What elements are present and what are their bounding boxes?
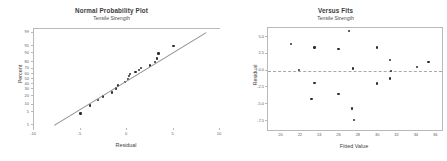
y-tick bbox=[31, 68, 33, 69]
y-tick bbox=[265, 86, 267, 87]
data-point bbox=[351, 107, 353, 109]
y-tick bbox=[31, 83, 33, 84]
data-point bbox=[157, 52, 159, 54]
fit-line bbox=[54, 33, 206, 126]
plot-area bbox=[34, 29, 220, 129]
x-tick bbox=[33, 128, 34, 130]
y-axis-label: Percent bbox=[17, 44, 23, 104]
y-tick-label: 99 bbox=[16, 29, 29, 34]
data-point bbox=[427, 61, 429, 63]
data-point bbox=[352, 67, 354, 69]
chart-title: Normal Probability Plot bbox=[0, 7, 223, 14]
data-point bbox=[348, 30, 350, 32]
data-point bbox=[89, 104, 91, 106]
data-point bbox=[79, 112, 81, 114]
y-tick bbox=[31, 95, 33, 96]
panel-versus-fits: Versus Fits Tensile Strength 20222426283… bbox=[224, 0, 447, 161]
y-tick bbox=[265, 70, 267, 71]
x-tick bbox=[173, 128, 174, 130]
data-point bbox=[376, 46, 378, 48]
x-axis-label: Residual bbox=[33, 142, 219, 148]
plot-area bbox=[268, 28, 442, 130]
y-tick bbox=[31, 78, 33, 79]
x-tick-label: -5 bbox=[69, 131, 91, 136]
y-tick bbox=[265, 53, 267, 54]
y-tick-label: 1 bbox=[16, 122, 29, 127]
y-tick bbox=[31, 61, 33, 62]
x-axis-label: Fitted Value bbox=[267, 143, 441, 149]
y-tick bbox=[31, 45, 33, 46]
y-tick-label: 5 bbox=[16, 109, 29, 114]
chart-subtitle: Tensile Strength bbox=[224, 15, 447, 21]
y-axis-label: Residual bbox=[252, 45, 258, 105]
data-point bbox=[156, 57, 158, 59]
x-tick-label: 5 bbox=[162, 131, 184, 136]
data-point bbox=[310, 98, 312, 100]
panel-normal-probability-plot: Normal Probability Plot Tensile Strength… bbox=[0, 0, 223, 161]
data-point bbox=[353, 119, 355, 121]
y-tick bbox=[265, 36, 267, 37]
data-point bbox=[313, 82, 315, 84]
x-tick-label: 36 bbox=[424, 132, 446, 137]
data-point bbox=[128, 75, 130, 77]
x-tick bbox=[219, 128, 220, 130]
x-tick-label: 0 bbox=[115, 131, 137, 136]
y-tick bbox=[31, 111, 33, 112]
data-point bbox=[337, 48, 339, 50]
data-point bbox=[290, 43, 292, 45]
y-tick bbox=[31, 73, 33, 74]
figure-canvas: Normal Probability Plot Tensile Strength… bbox=[0, 0, 447, 161]
data-point bbox=[140, 67, 142, 69]
data-point bbox=[337, 93, 339, 95]
x-tick bbox=[80, 128, 81, 130]
zero-reference-line bbox=[268, 71, 442, 72]
plot-frame bbox=[267, 27, 443, 131]
data-point bbox=[376, 82, 378, 84]
data-point bbox=[313, 46, 315, 48]
y-tick bbox=[31, 88, 33, 89]
y-tick-label: 5.0 bbox=[248, 34, 264, 39]
data-point bbox=[416, 66, 418, 68]
data-point bbox=[134, 71, 136, 73]
data-point bbox=[111, 91, 113, 93]
data-point bbox=[172, 45, 174, 47]
x-tick-label: -10 bbox=[22, 131, 44, 136]
y-tick bbox=[265, 120, 267, 121]
data-point bbox=[389, 77, 391, 79]
data-point bbox=[390, 70, 392, 72]
y-tick bbox=[31, 124, 33, 125]
plot-frame bbox=[33, 28, 220, 129]
x-tick bbox=[126, 128, 127, 130]
y-tick bbox=[265, 103, 267, 104]
data-point bbox=[389, 59, 391, 61]
y-tick bbox=[31, 32, 33, 33]
y-tick bbox=[31, 104, 33, 105]
chart-title: Versus Fits bbox=[224, 7, 447, 14]
chart-subtitle: Tensile Strength bbox=[0, 15, 223, 21]
y-tick-label: -7.5 bbox=[248, 118, 264, 123]
y-tick bbox=[31, 52, 33, 53]
